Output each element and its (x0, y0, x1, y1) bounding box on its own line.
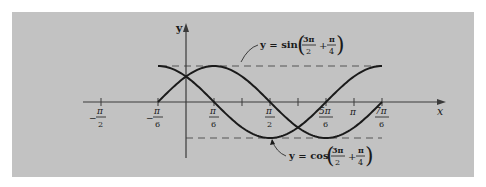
svg-text:y = cos: y = cos (288, 150, 329, 161)
svg-text:+: + (348, 151, 356, 162)
y-axis-label: y (175, 22, 183, 35)
tick-label-pi: π (349, 107, 357, 117)
svg-text:6: 6 (323, 120, 328, 129)
svg-text:−: − (146, 113, 154, 123)
svg-text:π: π (209, 106, 217, 116)
figure: x y − π 2 − π 6 π 6 π 2 5π 6 (0, 0, 486, 187)
svg-text:): ) (336, 32, 345, 57)
svg-text:6: 6 (211, 120, 216, 129)
svg-text:3π: 3π (332, 145, 344, 155)
plot-panel (12, 12, 474, 177)
svg-text:6: 6 (155, 120, 160, 129)
svg-text:−: − (89, 113, 97, 123)
svg-text:π: π (358, 145, 364, 155)
svg-text:6: 6 (379, 120, 384, 129)
svg-text:π: π (329, 34, 335, 44)
svg-text:π: π (349, 107, 357, 117)
svg-text:2: 2 (306, 47, 311, 56)
svg-text:π: π (153, 106, 161, 116)
svg-text:): ) (365, 143, 374, 168)
svg-text:4: 4 (329, 47, 334, 56)
svg-text:3π: 3π (303, 34, 315, 44)
x-axis-label: x (437, 105, 444, 118)
svg-text:π: π (265, 106, 273, 116)
svg-text:π: π (96, 106, 104, 116)
svg-text:4: 4 (358, 158, 363, 167)
svg-text:2: 2 (98, 120, 103, 129)
svg-text:+: + (319, 40, 327, 51)
svg-text:2: 2 (267, 120, 272, 129)
svg-text:y = sin: y = sin (259, 39, 299, 50)
svg-text:2: 2 (335, 158, 340, 167)
